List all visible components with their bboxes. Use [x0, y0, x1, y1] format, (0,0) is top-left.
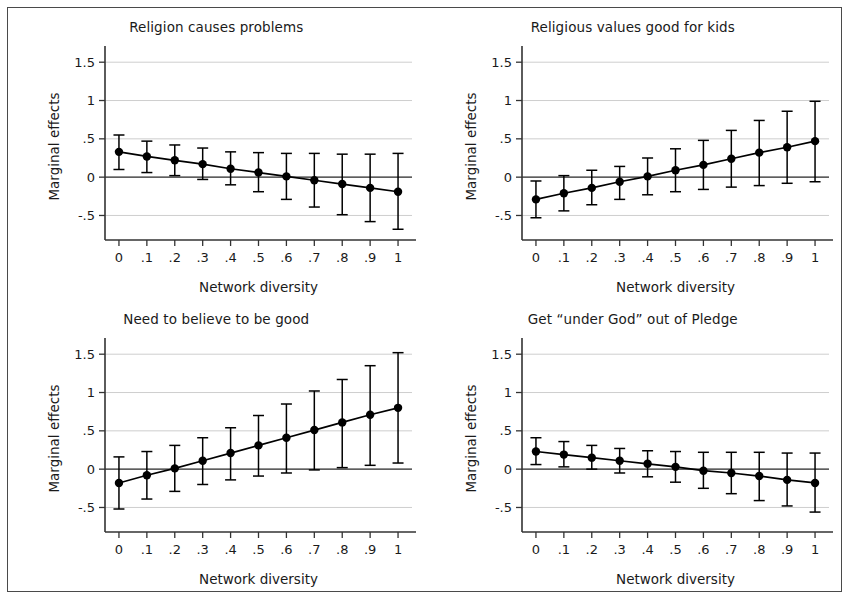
x-tick-label: .9: [364, 542, 376, 557]
y-axis-label: Marginal effects: [46, 92, 62, 200]
data-point-marker: [782, 143, 790, 151]
x-tick-label: .5: [252, 250, 264, 265]
data-point-group: [558, 441, 569, 466]
panel-religion-causes-problems: Religion causes problems 1.51.50-.50.1.2…: [8, 8, 425, 300]
y-tick-label: .5: [499, 423, 511, 438]
data-point-group: [253, 415, 264, 476]
data-point-marker: [171, 156, 179, 164]
x-tick-label: .5: [252, 542, 264, 557]
data-point-marker: [394, 403, 402, 411]
data-point-group: [558, 176, 569, 211]
data-point-marker: [559, 189, 567, 197]
data-point-group: [365, 365, 376, 465]
data-point-marker: [587, 184, 595, 192]
x-tick-label: .7: [308, 250, 320, 265]
x-tick-label: .8: [336, 250, 348, 265]
data-point-group: [781, 453, 792, 506]
data-point-group: [530, 181, 541, 218]
x-tick-label: .1: [557, 250, 569, 265]
x-tick-label: .8: [753, 250, 765, 265]
panel-need-to-believe-to-be-good: Need to believe to be good 1.51.50-.50.1…: [8, 300, 425, 592]
data-point-marker: [338, 180, 346, 188]
x-tick-label: .3: [196, 250, 208, 265]
data-point-marker: [254, 441, 262, 449]
data-point-marker: [115, 478, 123, 486]
x-tick-label: 0: [115, 250, 123, 265]
y-tick-label: -.5: [78, 208, 95, 223]
panel-grid: Religion causes problems 1.51.50-.50.1.2…: [8, 8, 841, 591]
x-tick-label: .9: [364, 250, 376, 265]
data-point-marker: [143, 471, 151, 479]
data-point-marker: [198, 456, 206, 464]
x-tick-label: .3: [613, 542, 625, 557]
y-tick-label: 1: [87, 385, 95, 400]
data-point-marker: [366, 184, 374, 192]
data-point-marker: [226, 448, 234, 456]
data-point-marker: [282, 433, 290, 441]
plot-area: 1.51.50-.50.1.2.3.4.5.6.7.8.91Network di…: [425, 300, 842, 592]
x-axis-label: Network diversity: [616, 279, 735, 295]
x-tick-label: .4: [224, 542, 236, 557]
data-point-group: [365, 154, 376, 221]
data-point-marker: [254, 168, 262, 176]
data-point-marker: [755, 471, 763, 479]
data-point-group: [141, 141, 152, 172]
x-tick-label: .7: [725, 542, 737, 557]
data-point-marker: [559, 450, 567, 458]
data-point-group: [809, 453, 820, 512]
data-point-group: [614, 166, 625, 199]
data-point-group: [781, 111, 792, 183]
x-tick-label: .4: [641, 542, 653, 557]
data-point-group: [586, 445, 597, 469]
data-point-marker: [226, 165, 234, 173]
x-tick-label: .1: [141, 542, 153, 557]
y-tick-label: 1.5: [74, 55, 95, 70]
data-point-marker: [643, 459, 651, 467]
data-point-group: [309, 153, 320, 207]
x-tick-label: .6: [697, 250, 709, 265]
data-point-group: [113, 135, 124, 169]
data-point-marker: [587, 453, 595, 461]
y-tick-label: .5: [499, 131, 511, 146]
data-point-group: [393, 153, 404, 229]
y-tick-label: 1.5: [74, 346, 95, 361]
y-tick-label: 0: [503, 461, 511, 476]
data-point-group: [197, 437, 208, 484]
data-point-group: [253, 153, 264, 192]
data-point-marker: [115, 148, 123, 156]
y-tick-label: 1: [503, 93, 511, 108]
x-tick-label: 1: [810, 542, 818, 557]
data-point-marker: [143, 152, 151, 160]
x-tick-label: .2: [585, 250, 597, 265]
y-tick-label: -.5: [494, 208, 511, 223]
data-point-marker: [699, 466, 707, 474]
x-tick-label: .7: [725, 250, 737, 265]
x-tick-label: .7: [308, 542, 320, 557]
data-point-group: [169, 445, 180, 491]
y-tick-label: 1.5: [491, 346, 512, 361]
data-point-group: [281, 153, 292, 199]
y-tick-label: .5: [83, 423, 95, 438]
data-point-group: [141, 451, 152, 499]
data-point-group: [309, 390, 320, 469]
data-point-marker: [699, 161, 707, 169]
data-point-marker: [727, 468, 735, 476]
data-point-group: [225, 152, 236, 185]
figure-frame: Religion causes problems 1.51.50-.50.1.2…: [7, 7, 842, 592]
data-point-group: [753, 452, 764, 500]
y-tick-label: 0: [87, 170, 95, 185]
x-tick-label: 1: [394, 250, 402, 265]
data-point-marker: [755, 148, 763, 156]
data-point-marker: [366, 410, 374, 418]
x-tick-label: .6: [280, 542, 292, 557]
x-tick-label: .6: [697, 542, 709, 557]
x-tick-label: .5: [669, 250, 681, 265]
y-tick-label: -.5: [78, 499, 95, 514]
data-point-marker: [810, 137, 818, 145]
data-point-marker: [643, 172, 651, 180]
data-point-group: [642, 450, 653, 476]
x-tick-label: .2: [169, 542, 181, 557]
y-axis-label: Marginal effects: [463, 384, 479, 492]
data-point-marker: [310, 176, 318, 184]
x-tick-label: .3: [613, 250, 625, 265]
